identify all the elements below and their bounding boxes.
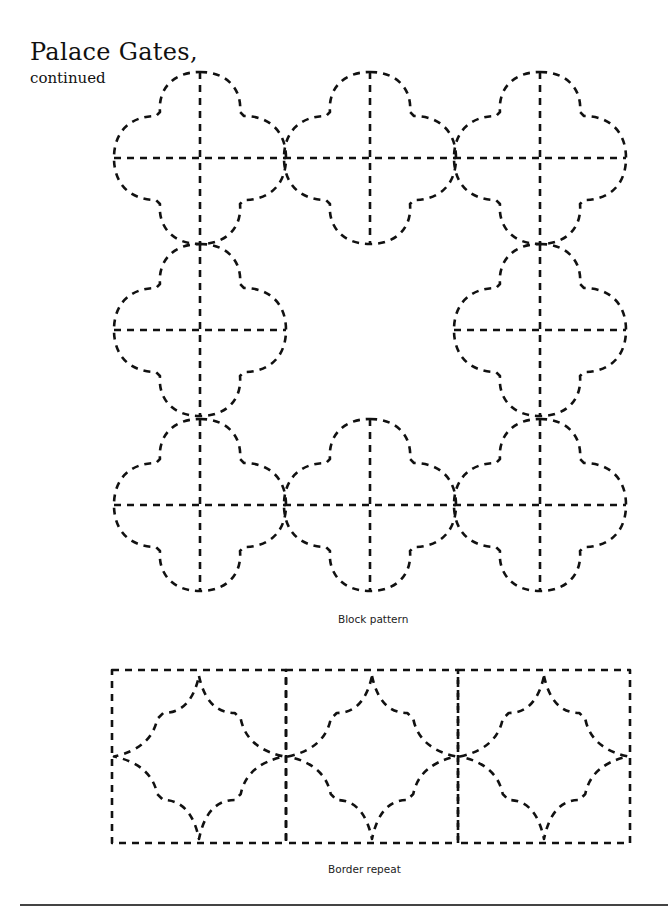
quatrefoil-motif [454,72,626,244]
border-square-motif [286,670,458,843]
border-repeat-figure [112,670,630,843]
star-outline [288,676,456,839]
star-outline [460,676,628,839]
quatrefoil-motif [114,72,286,244]
quatrefoil-motif [284,72,456,244]
quatrefoil-motif [284,419,456,591]
block-pattern-caption: Block pattern [338,613,408,625]
bottom-rule [20,904,668,906]
quatrefoil-motif [114,419,286,591]
quatrefoil-motif [454,244,626,416]
quatrefoil-motif [114,244,286,416]
border-square-motif [458,670,630,843]
star-outline [114,676,284,839]
square-outline [286,670,458,843]
border-repeat-caption: Border repeat [328,863,401,875]
block-pattern-figure [114,72,626,591]
pattern-artwork [0,0,668,911]
square-outline [112,670,286,843]
border-square-motif [112,670,286,843]
square-outline [458,670,630,843]
quatrefoil-motif [454,419,626,591]
